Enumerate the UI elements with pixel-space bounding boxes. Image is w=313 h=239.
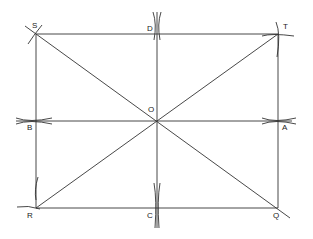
- arc-R-horizontal: [17, 206, 40, 209]
- point-label-Q: Q: [273, 212, 279, 220]
- point-label-T: T: [283, 23, 288, 31]
- construction-diagram: [0, 0, 313, 239]
- point-label-A: A: [282, 124, 287, 132]
- point-label-O: O: [148, 106, 154, 114]
- point-label-C: C: [147, 212, 153, 220]
- point-label-S: S: [32, 22, 37, 30]
- point-label-D: D: [147, 25, 153, 33]
- diagonal-SQ: [25, 26, 290, 218]
- point-label-R: R: [27, 212, 33, 220]
- point-label-B: B: [27, 124, 32, 132]
